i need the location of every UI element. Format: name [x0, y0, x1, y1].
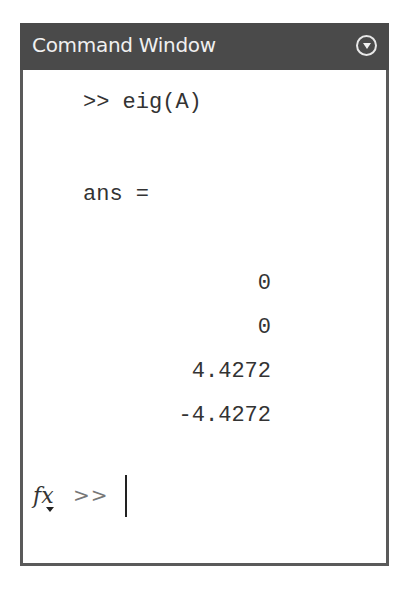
console-output: >> eig(A) ans = 0 0 4.4272 -4.4272 fx >>: [23, 70, 386, 563]
output-value: 0: [258, 271, 271, 296]
function-browser-fx-icon[interactable]: fx: [33, 483, 61, 508]
title-bar: Command Window: [20, 23, 389, 70]
output-label: ans =: [83, 182, 149, 207]
text-cursor[interactable]: [125, 475, 127, 517]
output-value: 0: [258, 315, 271, 340]
command-line: >> eig(A): [83, 90, 202, 115]
output-value: 4.4272: [192, 359, 271, 384]
command-input-row[interactable]: fx >>: [33, 478, 127, 512]
command-prompt: >>: [73, 483, 109, 507]
panel-menu-chevron-down-icon[interactable]: [356, 35, 377, 56]
window-title: Command Window: [32, 33, 216, 57]
output-value: -4.4272: [179, 403, 271, 428]
command-window-panel: Command Window >> eig(A) ans = 0 0 4.427…: [20, 23, 389, 566]
